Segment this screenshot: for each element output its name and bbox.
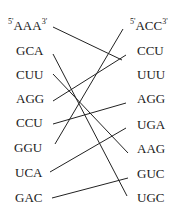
line-gac-guc (52, 178, 128, 198)
line-aaa-uuu (53, 27, 122, 60)
line-agg-ccu (53, 55, 126, 101)
connection-lines (0, 0, 177, 218)
line-gca-ugc (53, 54, 127, 196)
line-ccu-agg (53, 103, 126, 124)
line-uca-uga (50, 128, 126, 172)
